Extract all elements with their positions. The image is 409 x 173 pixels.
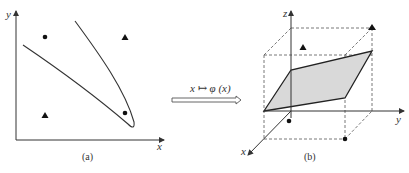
triangle-point [300, 44, 307, 50]
y-axis-label: y [5, 8, 11, 20]
circle-point [123, 111, 128, 116]
x-axis-label-3d: x [240, 145, 246, 157]
caption-b: (b) [304, 151, 316, 163]
x-axis-3d [248, 111, 291, 155]
circle-point [43, 35, 48, 40]
triangle-point [42, 112, 49, 118]
panel-b: z y x (b) [240, 7, 404, 163]
y-axis-label-3d: y [395, 113, 401, 125]
circle-point [343, 137, 348, 142]
caption-a: (a) [82, 151, 93, 163]
z-axis-label: z [282, 7, 288, 19]
circle-point [287, 119, 292, 124]
triangle-point [368, 24, 376, 30]
x-axis-label: x [156, 140, 162, 152]
separating-plane [264, 51, 372, 111]
hollow-arrow-icon [172, 96, 241, 104]
decision-boundary-curve [23, 21, 134, 127]
mapping-label: x ↦ φ (x) [189, 82, 231, 95]
triangle-point [122, 34, 129, 40]
kernel-mapping-diagram: y x (a) x ↦ φ (x) z y [0, 0, 409, 173]
mapping: x ↦ φ (x) [172, 82, 241, 104]
panel-a: y x (a) [5, 8, 164, 163]
